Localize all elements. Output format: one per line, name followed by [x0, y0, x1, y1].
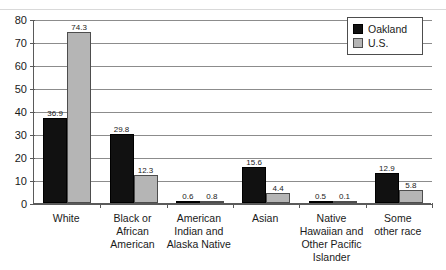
- x-category-label-line: Asian: [232, 212, 298, 225]
- bar-value-label: 4.4: [273, 185, 284, 193]
- y-tick-mark: [30, 66, 35, 67]
- chart-legend: OaklandU.S.: [347, 17, 423, 55]
- x-category-label: Someother race: [365, 212, 431, 238]
- bar-value-label: 0.8: [206, 193, 217, 201]
- bar-group: 0.60.8: [176, 20, 224, 203]
- x-category-label: AmericanIndian andAlaska Native: [166, 212, 232, 251]
- x-tick-mark: [366, 203, 367, 208]
- x-tick-mark: [100, 203, 101, 208]
- legend-item-oakland: Oakland: [353, 22, 417, 36]
- bar-value-label: 0.1: [339, 193, 350, 201]
- y-tick-mark: [30, 135, 35, 136]
- y-tick-label: 70: [15, 38, 27, 49]
- bar-value-label: 0.5: [315, 193, 326, 201]
- y-tick-mark: [30, 112, 35, 113]
- bar-oakland: 0.5: [309, 201, 333, 203]
- y-tick-label: 10: [15, 176, 27, 187]
- y-tick-mark: [30, 89, 35, 90]
- gridline: [34, 112, 432, 113]
- x-category-label-line: African: [99, 225, 165, 238]
- bar-group: 15.64.4: [242, 20, 290, 203]
- bar-value-label: 74.3: [71, 24, 87, 32]
- legend-label: Oakland: [368, 24, 407, 35]
- bar-group: 36.974.3: [43, 20, 91, 203]
- bar-us: 0.8: [200, 201, 224, 203]
- bar-value-label: 29.8: [114, 126, 130, 134]
- y-tick-mark: [30, 158, 35, 159]
- x-category-label-line: Other Pacific: [298, 238, 364, 251]
- x-category-label-line: Black or: [99, 212, 165, 225]
- bar-oakland: 29.8: [110, 134, 134, 203]
- legend-swatch-oakland: [353, 24, 363, 34]
- y-tick-mark: [30, 43, 35, 44]
- x-category-label: White: [33, 212, 99, 225]
- x-tick-mark: [233, 203, 234, 208]
- bar-value-label: 0.6: [182, 193, 193, 201]
- y-tick-mark: [30, 181, 35, 182]
- y-tick-label: 30: [15, 130, 27, 141]
- bar-us: 12.3: [134, 175, 158, 203]
- bar-value-label: 12.9: [379, 165, 395, 173]
- x-category-label-line: Indian and: [166, 225, 232, 238]
- x-tick-mark: [299, 203, 300, 208]
- y-tick-label: 50: [15, 84, 27, 95]
- bar-us: 0.1: [333, 201, 357, 203]
- gridline: [34, 89, 432, 90]
- x-category-label: NativeHawaiian andOther PacificIslander: [298, 212, 364, 264]
- bar-value-label: 15.6: [246, 159, 262, 167]
- x-category-label: Black orAfricanAmerican: [99, 212, 165, 251]
- gridline: [34, 181, 432, 182]
- bar-us: 5.8: [399, 190, 423, 203]
- bar-oakland: 0.6: [176, 201, 200, 203]
- bar-chart-figure: 01020304050607080 36.974.329.812.30.60.8…: [0, 0, 446, 270]
- y-tick-mark: [30, 20, 35, 21]
- x-category-label-line: American: [99, 238, 165, 251]
- x-category-label-line: White: [33, 212, 99, 225]
- x-category-label-line: other race: [365, 225, 431, 238]
- bar-oakland: 15.6: [242, 167, 266, 203]
- x-category-label: Asian: [232, 212, 298, 225]
- x-category-label-line: Native: [298, 212, 364, 225]
- gridline: [34, 158, 432, 159]
- y-tick-label: 0: [21, 199, 27, 210]
- x-category-label-line: Hawaiian and: [298, 225, 364, 238]
- legend-label: U.S.: [368, 38, 388, 49]
- x-tick-mark: [432, 203, 433, 208]
- legend-swatch-us: [353, 38, 363, 48]
- figure-top-rule: [0, 9, 446, 10]
- bar-us: 74.3: [67, 32, 91, 203]
- x-category-label-line: American: [166, 212, 232, 225]
- bar-value-label: 36.9: [47, 110, 63, 118]
- legend-item-us: U.S.: [353, 36, 417, 50]
- gridline: [34, 135, 432, 136]
- bar-value-label: 12.3: [138, 167, 154, 175]
- bar-us: 4.4: [266, 193, 290, 203]
- bar-value-label: 5.8: [405, 182, 416, 190]
- x-tick-mark: [167, 203, 168, 208]
- x-category-label-line: Some: [365, 212, 431, 225]
- y-tick-label: 20: [15, 153, 27, 164]
- x-category-label-line: Islander: [298, 251, 364, 264]
- y-tick-label: 40: [15, 107, 27, 118]
- bar-oakland: 36.9: [43, 118, 67, 203]
- bar-oakland: 12.9: [375, 173, 399, 203]
- y-tick-mark: [30, 204, 35, 205]
- gridline: [34, 66, 432, 67]
- y-tick-label: 80: [15, 15, 27, 26]
- x-category-label-line: Alaska Native: [166, 238, 232, 251]
- bar-group: 29.812.3: [110, 20, 158, 203]
- y-tick-label: 60: [15, 61, 27, 72]
